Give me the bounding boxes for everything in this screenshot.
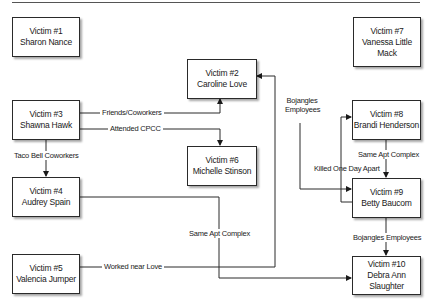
edge-label-attended-cpcc: Attended CPCC	[108, 124, 163, 133]
node-name: Sharon Nance	[20, 37, 72, 48]
edge-bojangles-v9	[300, 123, 351, 189]
edge-label-bojangles-employees-lower: Bojangles Employees	[351, 233, 423, 242]
node-victim-8[interactable]: Victim #8 Brandi Henderson	[352, 100, 421, 140]
node-name: Caroline Love	[197, 79, 247, 90]
node-title: Victim #8	[370, 109, 403, 120]
node-title: Victim #7	[370, 26, 403, 37]
node-name: Michelle Stinson	[193, 166, 252, 177]
node-title: Victim #1	[29, 26, 62, 37]
node-victim-9[interactable]: Victim #9 Betty Baucom	[352, 178, 421, 218]
node-victim-7[interactable]: Victim #7 Vanessa Little Mack	[353, 17, 421, 67]
node-victim-1[interactable]: Victim #1 Sharon Nance	[12, 17, 80, 57]
node-title: Victim #4	[29, 186, 62, 197]
edge-label-taco-bell-coworkers: Taco Bell Coworkers	[12, 151, 81, 160]
node-victim-10[interactable]: Victim #10 Debra Ann Slaughter	[352, 256, 421, 295]
node-title: Victim #6	[205, 155, 238, 166]
node-name: Brandi Henderson	[354, 120, 419, 131]
edge-label-worked-near-love: Worked near Love	[102, 262, 164, 271]
node-victim-5[interactable]: Victim #5 Valencia Jumper	[12, 254, 80, 294]
edge-label-same-apt-complex-v4: Same Apt Complex	[187, 229, 252, 238]
node-name: Audrey Spain	[22, 197, 71, 208]
node-victim-3[interactable]: Victim #3 Shawna Hawk	[12, 100, 80, 140]
edge-label-killed-one-day-apart: Killed One Day Apart	[312, 164, 382, 173]
node-name: Vanessa Little	[362, 37, 412, 48]
node-title: Victim #2	[205, 68, 238, 79]
node-title: Victim #3	[29, 109, 62, 120]
node-title: Victim #10	[368, 259, 406, 270]
edge-label-friends-coworkers: Friends/Coworkers	[100, 108, 164, 117]
node-name: Mack	[377, 48, 397, 59]
node-name: Slaughter	[369, 281, 404, 292]
node-victim-4[interactable]: Victim #4 Audrey Spain	[12, 177, 80, 217]
node-name: Betty Baucom	[361, 198, 412, 209]
node-title: Victim #9	[370, 187, 403, 198]
node-title: Victim #5	[29, 263, 62, 274]
edge-label-bojangles-employees-upper: Bojangles Employees	[283, 96, 321, 114]
edge-label-same-apt-complex-v8: Same Apt Complex	[356, 150, 421, 159]
node-victim-2[interactable]: Victim #2 Caroline Love	[187, 59, 257, 99]
node-name: Valencia Jumper	[16, 274, 76, 285]
edge-label-line: Employees	[285, 105, 319, 114]
node-name: Debra Ann	[367, 270, 405, 281]
edge-label-line: Bojangles	[285, 96, 319, 105]
node-name: Shawna Hawk	[20, 120, 72, 131]
node-victim-6[interactable]: Victim #6 Michelle Stinson	[187, 146, 257, 186]
victim-connection-diagram: Friends/Coworkers Attended CPCC Taco Bel…	[0, 0, 431, 308]
